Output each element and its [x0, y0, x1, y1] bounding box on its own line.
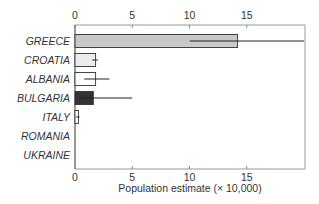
- category-labels: GREECECROATIAALBANIABULGARIAITALYROMANIA…: [17, 35, 71, 161]
- x-tick-label-top: 0: [72, 9, 78, 21]
- category-label-greece: GREECE: [26, 35, 71, 47]
- category-label-ukraine: UKRAINE: [23, 149, 71, 161]
- category-label-romania: ROMANIA: [21, 130, 70, 142]
- population-bar-chart: 005510101515 GREECECROATIAALBANIABULGARI…: [0, 0, 319, 204]
- x-tick-label-bottom: 0: [72, 171, 78, 183]
- category-label-albania: ALBANIA: [25, 73, 70, 85]
- x-tick-label-top: 15: [241, 9, 253, 21]
- category-label-croatia: CROATIA: [24, 54, 70, 66]
- category-label-bulgaria: BULGARIA: [17, 92, 70, 104]
- category-label-italy: ITALY: [43, 111, 71, 123]
- x-tick-label-top: 10: [184, 9, 196, 21]
- x-tick-label-top: 5: [129, 9, 135, 21]
- x-axis-label: Population estimate (× 10,000): [118, 182, 261, 194]
- bars: [75, 35, 304, 124]
